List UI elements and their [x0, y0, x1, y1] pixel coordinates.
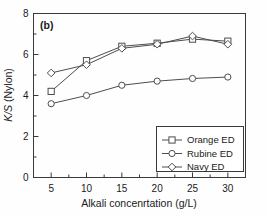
chart-legend: Orange EDRubine EDNavy ED: [157, 127, 244, 173]
data-marker-circle: [48, 101, 54, 107]
y-tick-label: 4: [23, 90, 29, 101]
y-axis-label-italic: K/S: [2, 105, 14, 122]
legend-items: Orange EDRubine EDNavy ED: [162, 134, 235, 172]
data-marker-square: [48, 88, 54, 94]
x-axis-label: Alkali concenrtation (g/L): [81, 197, 197, 209]
x-tick-label: 30: [222, 183, 234, 194]
series-line: [51, 36, 228, 73]
series-rubine-ed: [48, 74, 231, 107]
data-marker-circle: [83, 92, 89, 98]
y-axis-label: K/S (Nylon): [2, 68, 14, 122]
series-orange-ed: [48, 36, 231, 94]
data-marker-square: [169, 137, 175, 143]
data-marker-circle: [225, 74, 231, 80]
x-axis-ticks: 51015202530: [48, 173, 233, 194]
legend-label: Rubine ED: [187, 148, 233, 159]
data-marker-diamond: [47, 69, 55, 77]
panel-label: (b): [40, 19, 53, 31]
x-tick-label: 15: [116, 183, 128, 194]
data-marker-circle: [119, 82, 125, 88]
data-marker-circle: [154, 78, 160, 84]
legend-label: Orange ED: [187, 134, 235, 145]
data-marker-circle: [189, 75, 195, 81]
data-marker-circle: [169, 150, 175, 156]
y-tick-label: 8: [23, 8, 29, 19]
x-tick-label: 10: [81, 183, 93, 194]
y-tick-label: 6: [23, 49, 29, 60]
y-tick-label: 2: [23, 131, 29, 142]
y-tick-label: 0: [23, 172, 29, 183]
x-tick-label: 25: [187, 183, 199, 194]
x-tick-label: 20: [152, 183, 164, 194]
chart-figure: (b) 02468 51015202530 Alkali concenrtati…: [0, 0, 266, 216]
y-axis-label-rest: (Nylon): [2, 68, 14, 105]
chart-plot-area: (b) 02468 51015202530 Alkali concenrtati…: [0, 0, 266, 216]
series-line: [51, 77, 228, 104]
legend-label: Navy ED: [187, 161, 225, 172]
data-series-group: [47, 32, 231, 107]
x-tick-label: 5: [48, 183, 54, 194]
